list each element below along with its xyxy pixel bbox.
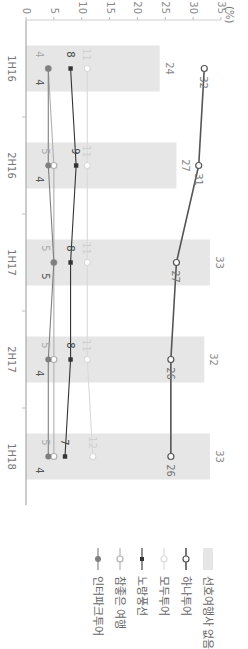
legend-label: 참좋은 여행 — [113, 576, 126, 630]
data-label: 7 — [59, 439, 70, 445]
legend-item: 참좋은 여행 — [113, 548, 126, 630]
legend-item: 인터파크투어 — [91, 548, 104, 636]
legend-item: 모두투어 — [157, 548, 170, 616]
chart-canvas: 05101520253035 2427333233323127262611111… — [0, 0, 248, 649]
data-label: 24 — [164, 62, 175, 75]
data-label: 8 — [65, 342, 76, 348]
legend: 선호여행사 없음하나투어모두투어노랑풍선참좋은 여행인터파크투어 — [91, 548, 214, 649]
legend-label: 모두투어 — [157, 576, 170, 616]
y-tick-label: 10 — [77, 1, 88, 14]
data-label: 27 — [170, 270, 181, 283]
data-label: 26 — [165, 464, 176, 477]
data-label: 31 — [193, 173, 204, 186]
x-category-label: 2H17 — [6, 346, 17, 373]
y-tick-label: 15 — [105, 1, 116, 14]
data-label: 5 — [40, 273, 51, 279]
y-tick-label: 20 — [132, 1, 143, 14]
data-label: 26 — [165, 367, 176, 380]
rotated-chart-stage: 05101520253035 2427333233323127262611111… — [0, 0, 248, 649]
x-axis-categories: 1H162H161H172H171H18 — [6, 55, 17, 470]
data-label: 4 — [34, 467, 45, 473]
x-category-label: 1H17 — [6, 249, 17, 276]
data-label: 11 — [81, 48, 92, 61]
data-label: 8 — [65, 51, 76, 57]
data-label: 5 — [40, 245, 51, 251]
data-label: 27 — [180, 159, 191, 172]
data-label: 5 — [40, 439, 51, 445]
y-tick-label: 5 — [49, 8, 60, 14]
data-label: 5 — [40, 342, 51, 348]
y-tick-label: 0 — [21, 8, 32, 14]
legend-item: 노랑풍선 — [135, 548, 148, 616]
data-label: 33 — [214, 256, 225, 269]
y-axis-unit-label: (%) — [224, 6, 235, 23]
legend-label: 선호여행사 없음 — [201, 576, 214, 649]
data-label: 5 — [40, 148, 51, 154]
x-category-label: 1H18 — [6, 443, 17, 470]
legend-item: 선호여행사 없음 — [201, 548, 214, 649]
data-label: 4 — [34, 370, 45, 376]
data-label: 11 — [81, 339, 92, 352]
data-label: 4 — [34, 176, 45, 182]
data-label: 11 — [81, 145, 92, 158]
data-label: 8 — [65, 245, 76, 251]
legend-item: 하나투어 — [179, 548, 193, 616]
y-tick-label: 25 — [160, 1, 171, 14]
x-category-label: 2H16 — [6, 152, 17, 179]
data-label: 4 — [34, 79, 45, 85]
legend-label: 인터파크투어 — [91, 576, 104, 636]
data-label: 9 — [70, 148, 81, 154]
data-label: 32 — [208, 353, 219, 366]
data-label: 11 — [81, 242, 92, 255]
data-label: 4 — [34, 51, 45, 57]
data-label: 33 — [214, 450, 225, 463]
y-tick-label: 30 — [188, 1, 199, 14]
data-label: 32 — [198, 76, 209, 89]
legend-label: 하나투어 — [179, 576, 193, 616]
data-label: 12 — [87, 436, 98, 449]
x-category-label: 1H16 — [6, 55, 17, 82]
legend-label: 노랑풍선 — [135, 576, 148, 616]
